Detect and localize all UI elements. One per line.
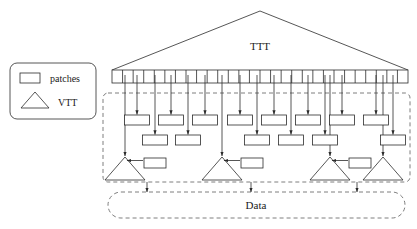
- architecture-diagram: patches VTT TTT Data: [0, 0, 417, 229]
- patch-box: [228, 115, 253, 125]
- patch-box: [125, 115, 150, 125]
- vtt-side-patch: [241, 158, 263, 168]
- ttt-module: TTT: [112, 11, 408, 70]
- patch-box: [296, 115, 321, 125]
- patch-box: [364, 115, 389, 125]
- legend-label-vtt: VTT: [58, 97, 77, 108]
- patch-box: [330, 115, 355, 125]
- legend-panel: patches VTT: [10, 63, 96, 119]
- patch-box: [143, 135, 168, 145]
- legend-label-patches: patches: [50, 73, 80, 84]
- patch-row-lower: [143, 135, 406, 145]
- patch-row-upper: [125, 115, 389, 125]
- patch-box: [159, 115, 184, 125]
- patch-box: [279, 135, 304, 145]
- diagram-root: patches VTT TTT Data: [0, 0, 417, 229]
- legend-patch-swatch-icon: [20, 73, 40, 83]
- patch-box: [176, 135, 201, 145]
- legend-vtt-swatch-icon: [21, 92, 49, 108]
- data-store-label: Data: [246, 199, 267, 211]
- patch-box: [381, 135, 406, 145]
- patch-box: [262, 115, 287, 125]
- vtt-side-patch: [144, 158, 166, 168]
- patch-box: [245, 135, 270, 145]
- vtt-units: [105, 157, 403, 180]
- patch-box: [313, 135, 338, 145]
- ttt-label: TTT: [250, 40, 270, 52]
- data-store: Data: [108, 192, 405, 218]
- patch-box: [193, 115, 218, 125]
- token-bar: [112, 70, 408, 83]
- legend-border: [10, 63, 96, 119]
- vtt-side-patch: [349, 158, 371, 168]
- data-arrows: [147, 182, 357, 192]
